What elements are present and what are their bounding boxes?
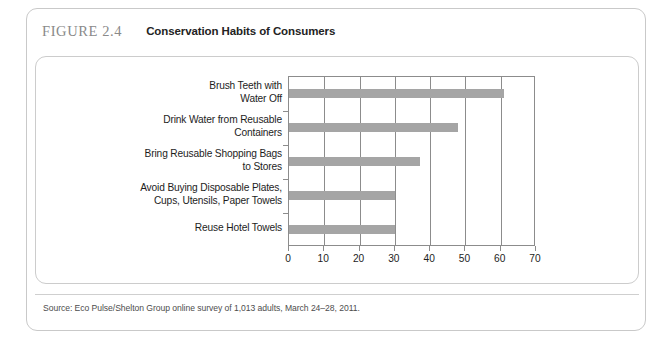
bar <box>289 225 395 234</box>
x-axis-tick <box>394 246 395 251</box>
bar-row <box>289 111 534 145</box>
figure-container: FIGURE 2.4 Conservation Habits of Consum… <box>26 8 646 331</box>
category-label-line: Brush Teeth with <box>42 80 282 92</box>
bar-row <box>289 213 534 247</box>
x-axis-tick <box>429 246 430 251</box>
category-label: Brush Teeth withWater Off <box>42 80 282 104</box>
bar <box>289 157 420 166</box>
bar-chart: Brush Teeth withWater OffDrink Water fro… <box>36 57 640 285</box>
category-label-line: Containers <box>42 127 282 139</box>
category-tick <box>283 145 289 146</box>
x-axis-tick <box>323 246 324 251</box>
category-label: Drink Water from ReusableContainers <box>42 114 282 138</box>
x-axis-tick-label: 30 <box>388 253 399 264</box>
category-label-line: to Stores <box>42 161 282 173</box>
category-label-line: Bring Reusable Shopping Bags <box>42 148 282 160</box>
category-label: Reuse Hotel Towels <box>42 222 282 234</box>
x-axis-tick <box>359 246 360 251</box>
x-axis-tick-label: 60 <box>494 253 505 264</box>
x-axis-tick <box>464 246 465 251</box>
category-tick <box>283 179 289 180</box>
category-label: Bring Reusable Shopping Bagsto Stores <box>42 148 282 172</box>
category-tick <box>283 111 289 112</box>
x-axis-tick-label: 0 <box>285 253 291 264</box>
value-axis: 010203040506070 <box>288 246 535 276</box>
figure-header: FIGURE 2.4 Conservation Habits of Consum… <box>27 9 645 53</box>
x-axis-tick <box>500 246 501 251</box>
category-label-line: Cups, Utensils, Paper Towels <box>42 195 282 207</box>
source-divider <box>35 294 639 295</box>
x-axis-tick <box>535 246 536 251</box>
x-axis-tick <box>288 246 289 251</box>
category-label: Avoid Buying Disposable Plates,Cups, Ute… <box>42 182 282 206</box>
x-axis-tick-label: 20 <box>353 253 364 264</box>
chart-panel: Brush Teeth withWater OffDrink Water fro… <box>35 56 639 284</box>
category-label-line: Avoid Buying Disposable Plates, <box>42 182 282 194</box>
x-axis-tick-label: 70 <box>529 253 540 264</box>
bar-row <box>289 77 534 111</box>
x-axis-tick-label: 10 <box>318 253 329 264</box>
bar-row <box>289 145 534 179</box>
category-label-line: Drink Water from Reusable <box>42 114 282 126</box>
bar <box>289 123 458 132</box>
category-label-line: Reuse Hotel Towels <box>42 222 282 234</box>
figure-title: Conservation Habits of Consumers <box>146 25 335 37</box>
x-axis-tick-label: 50 <box>459 253 470 264</box>
bar <box>289 89 504 98</box>
category-axis-labels: Brush Teeth withWater OffDrink Water fro… <box>36 76 282 246</box>
category-label-line: Water Off <box>42 93 282 105</box>
figure-number: FIGURE 2.4 <box>42 23 122 40</box>
bar-row <box>289 179 534 213</box>
bar <box>289 191 395 200</box>
x-axis-tick-label: 40 <box>423 253 434 264</box>
category-tick <box>283 213 289 214</box>
plot-area <box>288 76 535 246</box>
source-note: Source: Eco Pulse/Shelton Group online s… <box>43 303 360 313</box>
